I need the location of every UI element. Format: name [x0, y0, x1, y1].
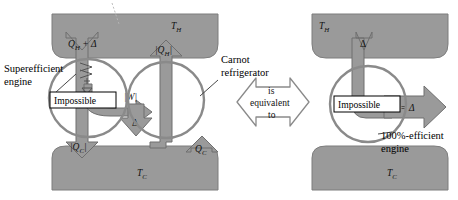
carnot-refrigerator-callout-line1: Carnot — [221, 54, 250, 65]
right-hot-reservoir — [312, 14, 448, 58]
left-impossible-label: Impossible — [54, 95, 96, 106]
equivalence-arrow: is equivalent to — [237, 78, 309, 126]
carnot-refrigerator-callout-line2: refrigerator — [221, 67, 269, 78]
thermo-diagram-svg: TH TC QH + Δ |QC| |QH| QC Δ |W| Impossib… — [0, 0, 458, 200]
right-cold-reservoir — [312, 146, 448, 190]
figure-canvas: TH TC QH + Δ |QC| |QH| QC Δ |W| Impossib… — [0, 0, 458, 200]
left-engine-heat-in-label: QH + Δ — [68, 39, 97, 51]
equivalence-line2: equivalent — [250, 98, 290, 108]
efficient-engine-callout-line2: engine — [381, 143, 409, 154]
efficient-engine-callout-line1: 100%-efficient — [381, 130, 444, 141]
left-refrigerator-heat-out-label: |QH| — [155, 45, 172, 57]
superefficient-engine-leader-line — [56, 74, 76, 92]
superefficient-engine-callout-line1: Superefficient — [4, 63, 63, 74]
right-impossible-badge: Impossible — [334, 96, 400, 112]
equivalence-line3: to — [268, 110, 276, 120]
left-engine-heat-out-label: |QC| — [70, 142, 87, 154]
right-heat-in-label: Δ — [360, 39, 366, 49]
superefficient-engine-callout-line2: engine — [4, 76, 32, 87]
right-impossible-label: Impossible — [338, 99, 380, 110]
left-impossible-badge: Impossible — [50, 92, 116, 108]
equivalence-line1: is — [268, 86, 275, 96]
